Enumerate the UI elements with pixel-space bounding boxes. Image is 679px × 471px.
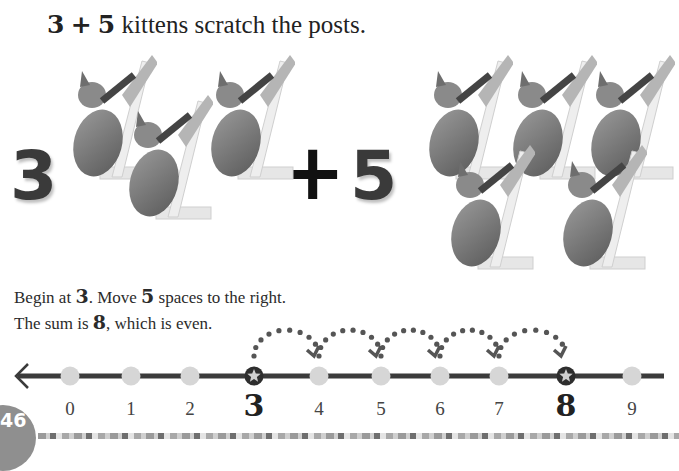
hop-dot	[428, 335, 433, 340]
hop-dot	[470, 328, 475, 333]
hop-dot	[316, 353, 321, 358]
tick-dot	[490, 367, 509, 386]
hop-dot	[420, 330, 425, 335]
tick-label: 5	[376, 398, 386, 420]
hop-dot	[487, 335, 492, 340]
hop-dot	[369, 335, 374, 340]
tick-label: 7	[494, 398, 504, 420]
kitten-scratching-post-image	[440, 145, 535, 280]
hop-dot	[533, 328, 538, 333]
hop-dot	[331, 332, 336, 337]
tick-label: 2	[185, 398, 195, 420]
hop-dot	[306, 335, 311, 340]
hop-dot	[392, 332, 397, 337]
hop-dot	[553, 335, 558, 340]
hop-dot	[437, 353, 442, 358]
hop-dot	[276, 328, 281, 333]
tick-dot	[61, 367, 80, 386]
hop-dot	[439, 345, 444, 350]
hop-dot	[385, 337, 390, 342]
big-number-left: 3	[10, 142, 57, 210]
tick-dot	[122, 367, 141, 386]
tick-label: 6	[435, 398, 445, 420]
hop-dot	[522, 328, 527, 333]
hop-dot	[360, 330, 365, 335]
hop-dot	[251, 353, 256, 358]
hop-dot	[479, 330, 484, 335]
tick-label: 3	[244, 388, 265, 423]
hop-arrowhead-icon	[554, 346, 566, 356]
title-plus: +	[71, 10, 92, 39]
number-line	[0, 320, 679, 390]
hop-dot	[498, 345, 503, 350]
hop-dot	[253, 345, 258, 350]
title-addend-b: 5	[98, 10, 115, 39]
decorative-footer-strip	[38, 433, 679, 439]
hop-dot	[298, 330, 303, 335]
kitten-scratching-post-image	[118, 95, 213, 230]
page-title: 3 + 5 kittens scratch the posts.	[47, 8, 366, 42]
hop-dot	[401, 328, 406, 333]
tick-label: 9	[627, 398, 637, 420]
title-text: kittens scratch the posts.	[115, 11, 366, 38]
kitten-scratching-post-image	[552, 145, 647, 280]
kitten-scratching-post-image	[200, 55, 295, 190]
tick-label: 1	[126, 398, 136, 420]
hop-dot	[340, 328, 345, 333]
hop-dot	[411, 328, 416, 333]
tick-label: 8	[556, 388, 577, 423]
tick-dot	[372, 367, 391, 386]
description-line-1: Begin at 3. Move 5 spaces to the right.	[14, 284, 286, 310]
hop-dot	[504, 337, 509, 342]
hop-dot	[460, 328, 465, 333]
hop-dot	[444, 337, 449, 342]
hop-dot	[350, 328, 355, 333]
hop-dot	[378, 353, 383, 358]
tick-label: 0	[65, 398, 75, 420]
page-number: 46	[0, 409, 26, 431]
tick-label: 4	[314, 398, 324, 420]
hop-dot	[544, 330, 549, 335]
tick-dot	[431, 367, 450, 386]
hop-dot	[512, 332, 517, 337]
tick-dot	[181, 367, 200, 386]
tick-dot	[623, 367, 642, 386]
hop-dot	[451, 332, 456, 337]
hop-dot	[496, 353, 501, 358]
hop-dot	[323, 337, 328, 342]
hop-dot	[380, 345, 385, 350]
title-addend-a: 3	[47, 10, 64, 39]
hop-dot	[318, 345, 323, 350]
big-number-right: 5	[350, 142, 397, 210]
hop-dot	[258, 337, 263, 342]
hop-dot	[287, 328, 292, 333]
hop-dot	[266, 332, 271, 337]
tick-dot	[310, 367, 329, 386]
